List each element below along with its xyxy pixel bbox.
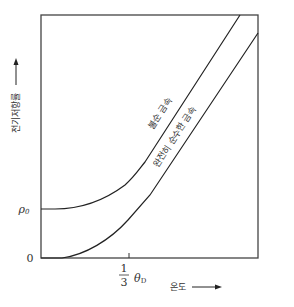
x-tick-frac-den: 3 bbox=[121, 276, 128, 289]
x-arrow-head-icon bbox=[215, 285, 222, 290]
y-arrow-head-icon bbox=[14, 58, 19, 65]
resistivity-chart: 0 ρ0 1 3 θD 온도 전기저항률 불순 금속 완전히 순수한 금속 bbox=[0, 0, 294, 307]
x-axis-label: 온도 bbox=[170, 282, 186, 292]
x-tick-frac-num: 1 bbox=[121, 262, 128, 275]
plot-frame bbox=[41, 15, 258, 258]
curve-pure-metal bbox=[41, 33, 258, 258]
y-axis-label: 전기저항률 bbox=[11, 93, 21, 133]
y-tick-zero: 0 bbox=[27, 252, 34, 265]
y-tick-rho0: ρ0 bbox=[18, 203, 30, 216]
x-tick-theta-d: θD bbox=[134, 272, 147, 285]
label-impure-metal: 불순 금속 bbox=[146, 96, 173, 131]
curve-impure-metal bbox=[41, 15, 240, 209]
